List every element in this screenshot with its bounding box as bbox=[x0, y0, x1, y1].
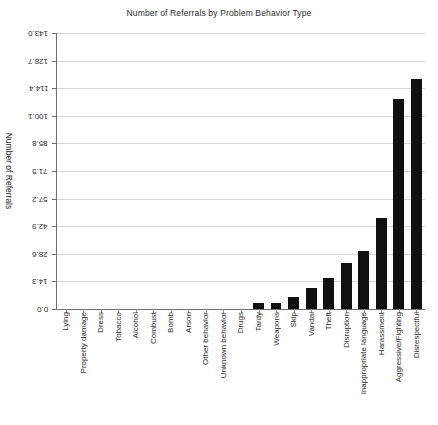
y-axis-tick bbox=[52, 33, 57, 34]
x-axis-category-label-text: Weapons bbox=[272, 312, 281, 346]
x-axis-category-label: Dress bbox=[92, 312, 110, 420]
x-axis-category-label-text: Vandal bbox=[307, 312, 316, 336]
x-axis-category-label-text: Tardy bbox=[254, 312, 263, 332]
x-axis-category-labels: LyingProperty damageDressTobaccoAlcoholC… bbox=[57, 312, 425, 420]
y-axis-tick bbox=[52, 199, 57, 200]
y-axis-tick-label: 0.0 bbox=[37, 305, 48, 314]
bar bbox=[376, 218, 387, 309]
x-axis-category-label: Arson bbox=[180, 312, 198, 420]
bar bbox=[341, 263, 352, 309]
x-axis-category-label-text: Combust bbox=[149, 312, 158, 344]
bar bbox=[288, 297, 299, 309]
y-axis-tick bbox=[52, 281, 57, 282]
x-axis-category-label-text: Other behavior bbox=[201, 312, 210, 365]
x-axis-category-label: Unknown behavior bbox=[215, 312, 233, 420]
x-axis-category-label-text: Harassment bbox=[377, 312, 386, 355]
x-axis-category-label: Disruption bbox=[337, 312, 355, 420]
y-axis-tick-label: 14.3 bbox=[32, 277, 48, 286]
y-axis-tick-label: 71.5 bbox=[32, 167, 48, 176]
gridline bbox=[57, 116, 425, 117]
y-axis-tick bbox=[52, 61, 57, 62]
y-axis-tick bbox=[52, 171, 57, 172]
bar bbox=[306, 288, 317, 309]
x-axis-category-label-text: Drugs bbox=[236, 312, 245, 333]
x-axis-category-label-text: Aggressive/Fighting bbox=[394, 312, 403, 382]
y-axis-tick-label: 128.7 bbox=[28, 56, 48, 65]
x-axis-category-label: Weapons bbox=[267, 312, 285, 420]
x-axis-category-label-text: Lying bbox=[61, 312, 70, 331]
y-axis-tick bbox=[52, 226, 57, 227]
x-axis-category-label-text: Disrespectful bbox=[412, 312, 421, 358]
gridline bbox=[57, 226, 425, 227]
y-axis-tick bbox=[52, 88, 57, 89]
y-axis-tick-label: 28.6 bbox=[32, 249, 48, 258]
y-axis-tick-label: 85.8 bbox=[32, 139, 48, 148]
x-axis-category-label: Lying bbox=[57, 312, 75, 420]
bar bbox=[393, 99, 404, 309]
x-axis-category-label: Disrespectful bbox=[407, 312, 425, 420]
plot-area bbox=[57, 33, 425, 309]
gridline bbox=[57, 33, 425, 34]
y-axis-tick-label: 42.9 bbox=[32, 222, 48, 231]
x-axis-category-label-text: Dress bbox=[96, 312, 105, 333]
y-axis-tick-label: 143.0 bbox=[28, 29, 48, 38]
gridline bbox=[57, 171, 425, 172]
y-axis-tick bbox=[52, 309, 57, 310]
x-axis-category-label-text: Bomb bbox=[166, 312, 175, 333]
y-axis-tick-label: 100.1 bbox=[28, 111, 48, 120]
y-axis-tick bbox=[52, 254, 57, 255]
bar bbox=[411, 79, 422, 309]
x-axis-category-label-text: Property damage bbox=[79, 312, 88, 373]
gridline bbox=[57, 199, 425, 200]
bar-chart-figure: Number of Referrals by Problem Behavior … bbox=[0, 0, 438, 425]
x-axis-category-label: Skip bbox=[285, 312, 303, 420]
x-axis-category-label: Other behavior bbox=[197, 312, 215, 420]
gridline bbox=[57, 143, 425, 144]
x-axis-category-label-text: Tobacco bbox=[114, 312, 123, 342]
x-axis-category-label: Property damage bbox=[75, 312, 93, 420]
x-axis-category-label: Combust bbox=[145, 312, 163, 420]
bar bbox=[323, 278, 334, 309]
x-axis-category-label: Bomb bbox=[162, 312, 180, 420]
x-axis-category-label: Vandal bbox=[302, 312, 320, 420]
y-axis-tick bbox=[52, 116, 57, 117]
chart-title: Number of Referrals by Problem Behavior … bbox=[0, 8, 438, 18]
y-axis-tick-label: 114.4 bbox=[29, 84, 48, 93]
y-axis-tick-label: 57.2 bbox=[32, 194, 48, 203]
bar bbox=[358, 251, 369, 309]
x-axis-category-label-text: Inappropriate language bbox=[359, 312, 368, 394]
x-axis-category-label-text: Theft bbox=[324, 312, 333, 330]
y-axis-tick-labels: 0.014.328.642.957.271.585.8100.1114.4128… bbox=[0, 33, 52, 309]
x-axis-category-label: Inappropriate language bbox=[355, 312, 373, 420]
x-axis-category-label-text: Arson bbox=[184, 312, 193, 333]
x-axis-category-label: Theft bbox=[320, 312, 338, 420]
x-axis-category-label: Aggressive/Fighting bbox=[390, 312, 408, 420]
x-axis-category-label: Harassment bbox=[372, 312, 390, 420]
gridline bbox=[57, 254, 425, 255]
y-axis-tick bbox=[52, 143, 57, 144]
x-axis-category-label: Tobacco bbox=[110, 312, 128, 420]
x-axis-category-label-text: Skip bbox=[289, 312, 298, 328]
x-axis-category-label: Drugs bbox=[232, 312, 250, 420]
gridline bbox=[57, 281, 425, 282]
x-axis-category-label-text: Unknown behavior bbox=[219, 312, 228, 378]
gridline bbox=[57, 88, 425, 89]
x-axis-category-label: Alcohol bbox=[127, 312, 145, 420]
x-axis-category-label-text: Alcohol bbox=[131, 312, 140, 338]
x-axis-category-label: Tardy bbox=[250, 312, 268, 420]
gridline bbox=[57, 61, 425, 62]
x-axis-category-label-text: Disruption bbox=[342, 312, 351, 348]
